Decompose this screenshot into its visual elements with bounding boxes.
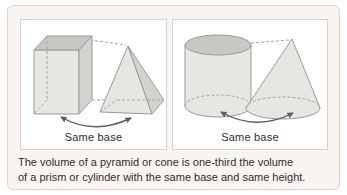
figure-card: Same base Same base The volume of a pyra… xyxy=(7,5,340,190)
cylinder-shape xyxy=(185,35,251,117)
caption-line-1: The volume of a pyramid or cone is one-t… xyxy=(18,155,331,170)
prism-pyramid-diagram xyxy=(21,20,164,130)
caption-line-2: of a prism or cylinder with the same bas… xyxy=(18,170,331,185)
cone-shape xyxy=(246,39,320,119)
pyramid-shape xyxy=(100,46,164,114)
same-base-label-left: Same base xyxy=(21,131,166,143)
same-base-label-right: Same base xyxy=(173,131,327,143)
same-height-dashed-line xyxy=(251,40,289,43)
prism-pyramid-panel: Same base xyxy=(20,19,167,150)
same-height-dashed-line xyxy=(90,40,126,45)
same-base-arrow-icon xyxy=(61,117,131,127)
figure-caption: The volume of a pyramid or cone is one-t… xyxy=(18,155,331,184)
cylinder-cone-diagram xyxy=(173,20,325,130)
rectangular-prism-shape xyxy=(34,36,92,114)
cylinder-cone-panel: Same base xyxy=(172,19,328,150)
